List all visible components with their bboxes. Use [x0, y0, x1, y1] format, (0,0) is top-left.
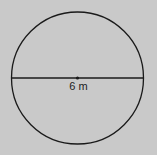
- circle-diagram: [0, 0, 157, 155]
- diameter-label: 6 m: [0, 80, 157, 92]
